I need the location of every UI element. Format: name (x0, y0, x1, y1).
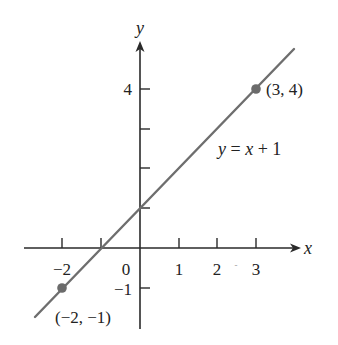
y-tick-label: −1 (114, 280, 132, 299)
line-graph: −2 0 1 2 3 - x 4 −1 y (3, 4) (−2, −1) y … (0, 0, 338, 345)
point-label: (3, 4) (266, 80, 303, 99)
equation-equals: = (226, 139, 245, 159)
y-tick-label: 4 (124, 80, 133, 99)
equation-x: x (244, 139, 253, 159)
x-tick-label: 3 (252, 260, 261, 279)
x-tick-label: 1 (175, 260, 184, 279)
x-tick-label: −2 (53, 260, 71, 279)
x-axis: −2 0 1 2 3 - x (24, 238, 312, 279)
equation-y: y (216, 139, 226, 159)
equation-constant: + 1 (253, 139, 281, 159)
x-axis-label: x (303, 238, 312, 258)
equation-label: y = x + 1 (216, 139, 281, 159)
x-tick-label: 2 (213, 260, 222, 279)
point-marker (57, 283, 67, 293)
origin-label: 0 (122, 260, 131, 279)
y-axis: 4 −1 y (114, 18, 150, 329)
stray-mark: - (235, 260, 238, 270)
point-marker (251, 84, 261, 94)
y-axis-label: y (134, 18, 144, 38)
point-label: (−2, −1) (55, 308, 111, 327)
